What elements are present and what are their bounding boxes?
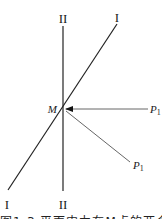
label-I-bottom: I	[5, 197, 9, 212]
label-II-bottom: II	[59, 197, 68, 212]
label-P1-horizontal: P1	[149, 103, 161, 117]
label-II-top: II	[59, 11, 68, 26]
label-M: M	[47, 103, 58, 115]
force-ray-diagonal	[66, 111, 130, 162]
label-I-top: I	[115, 10, 119, 25]
label-P1-diagonal: P1	[132, 159, 144, 173]
figure-caption: 图1-3 平面内力在M点的两个方向	[0, 212, 162, 219]
vector-diagram: II I I II M P1 P1	[0, 0, 162, 219]
